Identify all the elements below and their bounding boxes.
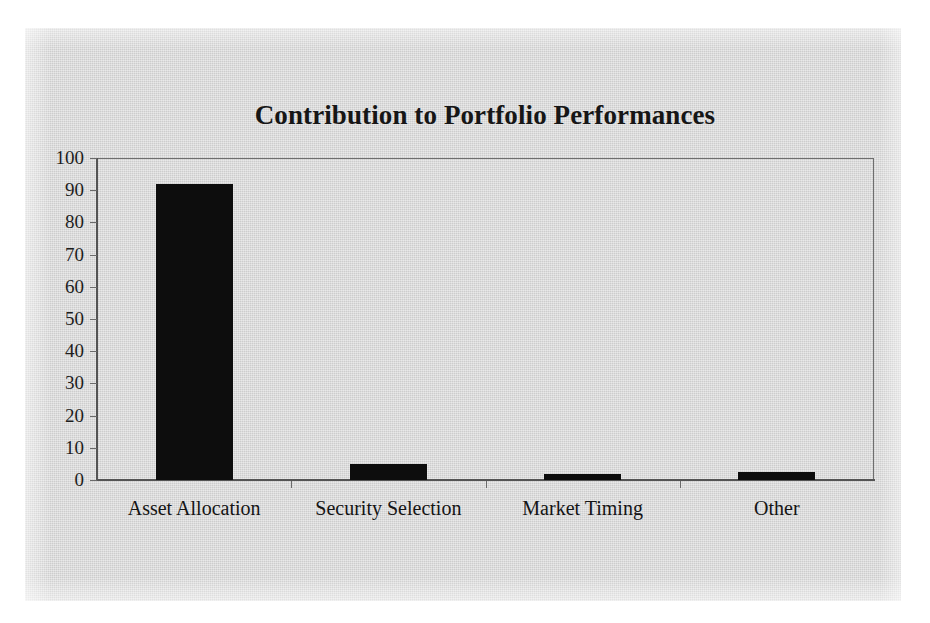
y-axis-tick-label: 40 [40, 341, 84, 360]
bar-chart: Contribution to Portfolio Performances 0… [0, 0, 930, 623]
y-axis-tick-label: 10 [40, 438, 84, 457]
y-axis-tick [90, 255, 97, 256]
bar [350, 464, 427, 480]
y-axis-tick [90, 448, 97, 449]
x-axis-tick [291, 481, 292, 488]
bar [738, 472, 815, 480]
x-axis-category-label: Security Selection [291, 498, 485, 518]
y-axis-tick-label: 30 [40, 373, 84, 392]
bar [544, 474, 621, 480]
chart-title: Contribution to Portfolio Performances [90, 100, 880, 131]
x-axis-tick [680, 481, 681, 488]
y-axis-tick [90, 190, 97, 191]
y-axis-tick [90, 480, 97, 481]
y-axis-tick-label: 50 [40, 309, 84, 328]
scanned-page: Contribution to Portfolio Performances 0… [0, 0, 930, 623]
bar [156, 184, 233, 480]
y-axis-tick-label: 60 [40, 277, 84, 296]
y-axis-tick-label: 20 [40, 406, 84, 425]
y-axis-tick [90, 287, 97, 288]
y-axis-tick [90, 222, 97, 223]
y-axis-tick [90, 158, 97, 159]
y-axis-tick-label: 70 [40, 245, 84, 264]
y-axis-tick [90, 383, 97, 384]
y-axis-tick-label: 90 [40, 180, 84, 199]
y-axis-tick [90, 351, 97, 352]
x-axis-tick [486, 481, 487, 488]
y-axis-tick [90, 319, 97, 320]
x-axis-category-label: Other [680, 498, 874, 518]
y-axis-tick [90, 416, 97, 417]
x-axis-category-label: Asset Allocation [97, 498, 291, 518]
y-axis-tick-label: 80 [40, 212, 84, 231]
x-axis-category-label: Market Timing [486, 498, 680, 518]
y-axis-tick-label: 100 [40, 148, 84, 167]
y-axis-tick-label: 0 [40, 470, 84, 489]
